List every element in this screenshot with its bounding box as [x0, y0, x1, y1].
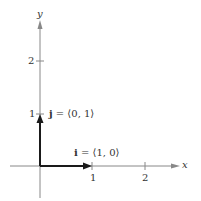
y-tick-label-2: 2 [28, 56, 34, 66]
y-axis-label: y [37, 9, 43, 19]
x-tick-label-1: 1 [90, 173, 96, 183]
y-tick-label-1: 1 [29, 109, 35, 119]
vector-j-label: j = ⟨0, 1⟩ [49, 109, 94, 119]
vector-j-arrow-icon [37, 114, 44, 123]
vector-i-expr: = ⟨1, 0⟩ [78, 147, 120, 158]
y-axis-arrow-icon [38, 20, 43, 29]
vector-i-label: i = ⟨1, 0⟩ [74, 148, 119, 158]
coordinate-plane [0, 0, 201, 201]
x-axis-arrow-icon [171, 164, 180, 169]
vector-i-arrow-icon [83, 163, 92, 170]
x-tick-label-2: 2 [142, 173, 148, 183]
vector-j-expr: = ⟨0, 1⟩ [53, 108, 95, 119]
x-axis-label: x [182, 160, 188, 170]
